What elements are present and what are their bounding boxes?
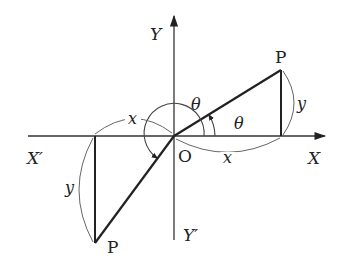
- x-prime-axis-label: X′: [25, 148, 43, 168]
- brace-y-left: [79, 138, 93, 242]
- y-right-length-label: y: [296, 94, 307, 113]
- point-p-lower-label: P: [107, 237, 118, 257]
- angle-arc-small: [209, 115, 215, 136]
- coordinate-diagram: Y Y′ X X′ O P P θ θ x y x y: [0, 0, 340, 272]
- x-left-length-label: x: [128, 109, 137, 128]
- y-prime-axis-label: Y′: [183, 225, 198, 245]
- theta-large-label: θ: [191, 95, 201, 114]
- y-axis-label: Y: [150, 24, 163, 44]
- y-left-length-label: y: [64, 178, 75, 197]
- brace-y-right: [283, 71, 294, 135]
- point-p-upper-label: P: [275, 47, 286, 67]
- segment-op-lower: [95, 136, 174, 243]
- x-right-length-label: x: [223, 148, 232, 167]
- origin-label: O: [178, 146, 192, 166]
- x-axis-label: X: [306, 148, 321, 168]
- theta-small-label: θ: [234, 114, 244, 133]
